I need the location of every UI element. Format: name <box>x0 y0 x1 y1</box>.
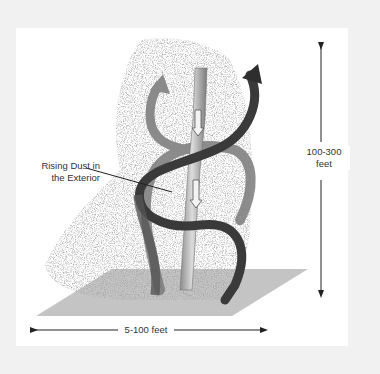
rising-dust-label: Rising Dust in the Exterior <box>22 160 100 184</box>
rising-dust-label-line1: Rising Dust in <box>22 160 100 172</box>
arrowhead-right-icon <box>242 64 262 84</box>
height-label-line1: 100-300 <box>298 146 350 158</box>
height-label-line2: feet <box>298 158 350 170</box>
dust-devil-illustration <box>0 0 380 374</box>
width-label: 5-100 feet <box>118 324 174 336</box>
height-label: 100-300 feet <box>298 146 350 170</box>
rising-dust-label-line2: the Exterior <box>22 172 100 184</box>
